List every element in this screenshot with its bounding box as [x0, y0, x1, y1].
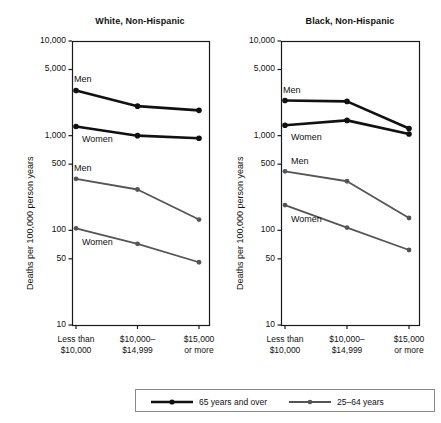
- x-tick-label: $15,000or more: [166, 334, 232, 356]
- y-tick-label: 500: [16, 158, 66, 168]
- legend-label-25-64: 25–64 years: [337, 397, 384, 407]
- series-annotation-women: Women: [291, 132, 322, 142]
- y-tick-label: 50: [225, 253, 275, 263]
- x-tick-label: $15,000or more: [376, 334, 441, 356]
- legend-entry-65-and-over: 65 years and over: [150, 394, 267, 409]
- y-tick-label: 1,000: [16, 130, 66, 140]
- y-tick-label: 10,000: [16, 35, 66, 45]
- legend: 65 years and over 25–64 years: [135, 389, 435, 412]
- x-tick-label-line: $15,000: [376, 334, 441, 345]
- panel-title-white: White, Non-Hispanic: [70, 16, 210, 26]
- x-tick-label-line: $15,000: [166, 334, 232, 345]
- x-tick-label-line: or more: [376, 345, 441, 356]
- y-tick-label: 10: [16, 319, 66, 329]
- series-annotation-women: Women: [82, 237, 113, 247]
- panel-title-black: Black, Non-Hispanic: [280, 16, 420, 26]
- y-tick-label: 100: [16, 224, 66, 234]
- y-tick-label: 5,000: [225, 63, 275, 73]
- series-annotation-men: Men: [74, 163, 92, 173]
- x-tick-label: Less than$10,000: [252, 334, 318, 356]
- series-annotation-men: Men: [283, 85, 301, 95]
- x-tick-label-line: Less than: [252, 334, 318, 345]
- x-tick-label: $10,000–$14,999: [105, 334, 171, 356]
- x-tick-label-line: $10,000–: [105, 334, 171, 345]
- x-tick-label-line: $14,999: [314, 345, 380, 356]
- y-tick-label: 10: [225, 319, 275, 329]
- series-annotation-men: Men: [291, 156, 309, 166]
- y-tick-label: 5,000: [16, 63, 66, 73]
- series-annotation-women: Women: [82, 134, 113, 144]
- x-tick-label-line: $10,000: [43, 345, 109, 356]
- legend-entry-25-64: 25–64 years: [288, 394, 384, 409]
- legend-line-icon-25-64: [288, 397, 332, 407]
- y-axis-title-right: Deaths per 100,000 person years: [235, 156, 245, 290]
- y-tick-label: 50: [16, 253, 66, 263]
- series-annotation-men: Men: [74, 74, 92, 84]
- x-tick-label-line: $10,000: [252, 345, 318, 356]
- plot-area-white: [0, 0, 441, 423]
- y-axis-title-left: Deaths per 100,000 person years: [25, 156, 35, 290]
- x-tick-label-line: or more: [166, 345, 232, 356]
- x-tick-label-line: $14,999: [105, 345, 171, 356]
- legend-label-65-and-over: 65 years and over: [199, 397, 267, 407]
- y-tick-label: 10,000: [225, 35, 275, 45]
- y-tick-label: 500: [225, 158, 275, 168]
- x-tick-label: $10,000–$14,999: [314, 334, 380, 356]
- y-tick-label: 1,000: [225, 130, 275, 140]
- x-tick-label-line: Less than: [43, 334, 109, 345]
- y-tick-label: 100: [225, 224, 275, 234]
- series-annotation-women: Women: [291, 214, 322, 224]
- figure-root: Deaths per 100,000 person years Deaths p…: [0, 0, 441, 423]
- x-tick-label-line: $10,000–: [314, 334, 380, 345]
- x-tick-label: Less than$10,000: [43, 334, 109, 356]
- legend-line-icon-65-and-over: [150, 397, 194, 407]
